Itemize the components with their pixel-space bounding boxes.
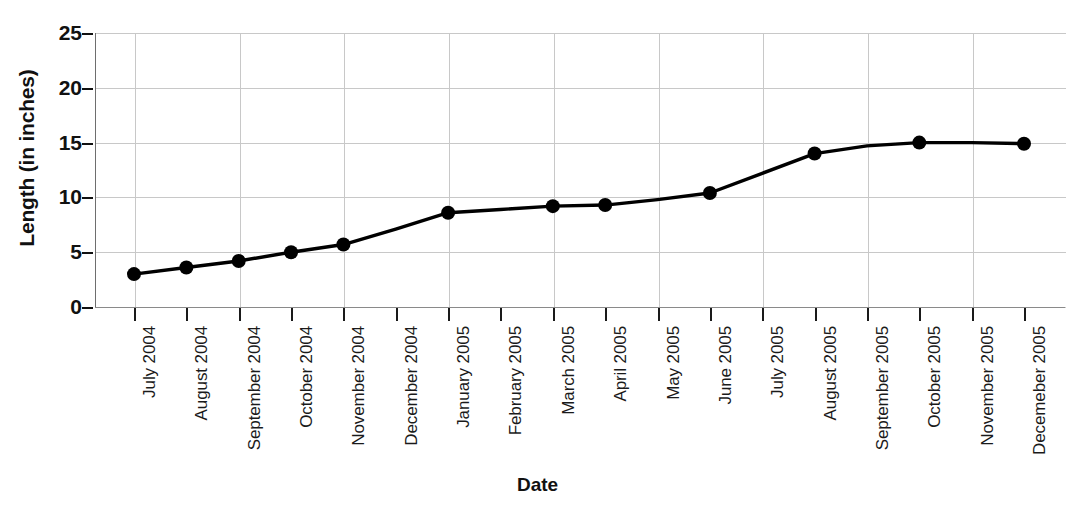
x-tick-label: July 2005 [768, 326, 788, 398]
x-tick-label: May 2005 [664, 326, 684, 400]
x-tick-label: October 2005 [925, 326, 945, 428]
x-tick-label: December 2004 [402, 326, 422, 446]
y-tick-mark [82, 197, 93, 199]
x-tick-mark [605, 308, 607, 321]
y-tick-label: 5 [36, 241, 82, 262]
x-tick-label: July 2004 [140, 326, 160, 398]
x-tick-mark [972, 308, 974, 321]
gridline-vertical [868, 33, 869, 307]
x-tick-label: August 2005 [821, 326, 841, 420]
chart-title-remnant [0, 0, 1069, 3]
x-tick-mark [553, 308, 555, 321]
gridline-horizontal [96, 33, 1066, 34]
y-tick-label: 0 [36, 296, 82, 317]
x-tick-label: September 2004 [245, 326, 265, 450]
gridline-vertical [449, 33, 450, 307]
plot-area [95, 33, 1066, 307]
x-tick-mark [239, 308, 241, 321]
x-tick-label: November 2005 [978, 326, 998, 446]
line-chart: Length (in inches) 0510152025 July 2004A… [0, 0, 1069, 507]
gridline-vertical [135, 33, 136, 307]
gridline-horizontal [96, 197, 1066, 198]
gridline-horizontal [96, 88, 1066, 89]
x-tick-mark [710, 308, 712, 321]
y-tick-mark [82, 143, 93, 145]
gridline-vertical [554, 33, 555, 307]
x-tick-mark [1024, 308, 1026, 321]
x-tick-mark [291, 308, 293, 321]
y-tick-label: 15 [36, 132, 82, 153]
x-axis-title-text: Date [517, 474, 558, 495]
x-tick-label: January 2005 [454, 326, 474, 428]
x-tick-label: November 2004 [349, 326, 369, 446]
x-tick-mark [448, 308, 450, 321]
x-tick-label: March 2005 [559, 326, 579, 415]
x-tick-mark [343, 308, 345, 321]
x-tick-label: August 2004 [192, 326, 212, 420]
x-tick-mark [186, 308, 188, 321]
x-tick-mark [919, 308, 921, 321]
y-axis-ticks: 0510152025 [30, 0, 82, 507]
y-tick-mark [82, 307, 93, 309]
y-tick-label: 20 [36, 77, 82, 98]
gridline-vertical [973, 33, 974, 307]
x-tick-mark [134, 308, 136, 321]
y-tick-mark [82, 88, 93, 90]
y-tick-mark [82, 33, 93, 35]
y-tick-label: 25 [36, 22, 82, 43]
gridline-vertical [763, 33, 764, 307]
x-tick-mark [867, 308, 869, 321]
gridline-vertical [240, 33, 241, 307]
x-axis-title: Date [0, 474, 1069, 496]
y-tick-label: 10 [36, 186, 82, 207]
x-tick-mark [396, 308, 398, 321]
gridline-horizontal [96, 143, 1066, 144]
x-tick-label: February 2005 [506, 326, 526, 435]
x-tick-label: October 2004 [297, 326, 317, 428]
x-tick-label: Decemeber 2005 [1030, 326, 1050, 455]
gridline-vertical [659, 33, 660, 307]
gridline-horizontal [96, 252, 1066, 253]
x-tick-mark [658, 308, 660, 321]
x-tick-label: April 2005 [611, 326, 631, 402]
x-tick-mark [500, 308, 502, 321]
x-tick-mark [762, 308, 764, 321]
x-tick-label: September 2005 [873, 326, 893, 450]
y-tick-mark [82, 252, 93, 254]
gridline-vertical [344, 33, 345, 307]
x-tick-label: June 2005 [716, 326, 736, 405]
x-tick-mark [815, 308, 817, 321]
